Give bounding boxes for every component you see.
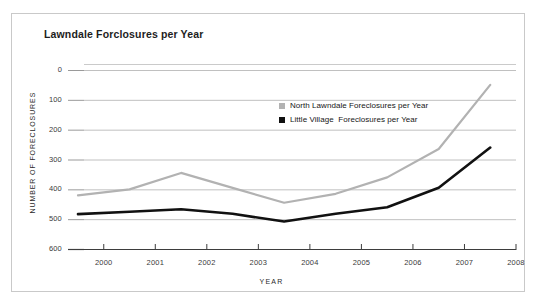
x-tick-label: 2006 bbox=[395, 258, 431, 267]
x-tick-label: 2003 bbox=[240, 258, 276, 267]
legend-label: Little Village Foreclosures per Year bbox=[290, 115, 418, 124]
x-tick-label: 2008 bbox=[498, 258, 534, 267]
y-tick-marks bbox=[68, 71, 84, 250]
x-tick-label: 2000 bbox=[86, 258, 122, 267]
x-tick-label: 2002 bbox=[189, 258, 225, 267]
y-tick-label: 200 bbox=[36, 125, 62, 134]
y-tick-label: 100 bbox=[36, 95, 62, 104]
chart-figure: Lawndale Forclosures per Year 6005004003… bbox=[0, 0, 543, 302]
legend-label: North Lawndale Foreclosures per Year bbox=[290, 101, 428, 110]
x-tick-label: 2007 bbox=[446, 258, 482, 267]
legend-swatch-icon bbox=[279, 103, 285, 109]
y-tick-label: 0 bbox=[36, 65, 62, 74]
y-tick-label: 600 bbox=[36, 244, 62, 253]
x-tick-label: 2004 bbox=[292, 258, 328, 267]
y-tick-label: 300 bbox=[36, 155, 62, 164]
x-tick-label: 2001 bbox=[137, 258, 173, 267]
x-tick-label: 2005 bbox=[343, 258, 379, 267]
legend-item: North Lawndale Foreclosures per Year bbox=[279, 99, 459, 112]
series-line bbox=[78, 148, 490, 222]
chart-legend: North Lawndale Foreclosures per YearLitt… bbox=[279, 99, 459, 127]
y-tick-label: 400 bbox=[36, 184, 62, 193]
legend-item: Little Village Foreclosures per Year bbox=[279, 113, 459, 126]
y-tick-label: 500 bbox=[36, 214, 62, 223]
gridlines bbox=[84, 65, 516, 220]
y-axis-label: NUMBER OF FORECLOSURES bbox=[29, 94, 36, 214]
x-axis-label: YEAR bbox=[0, 278, 543, 285]
legend-swatch-icon bbox=[279, 117, 285, 123]
plot-area bbox=[0, 0, 543, 302]
